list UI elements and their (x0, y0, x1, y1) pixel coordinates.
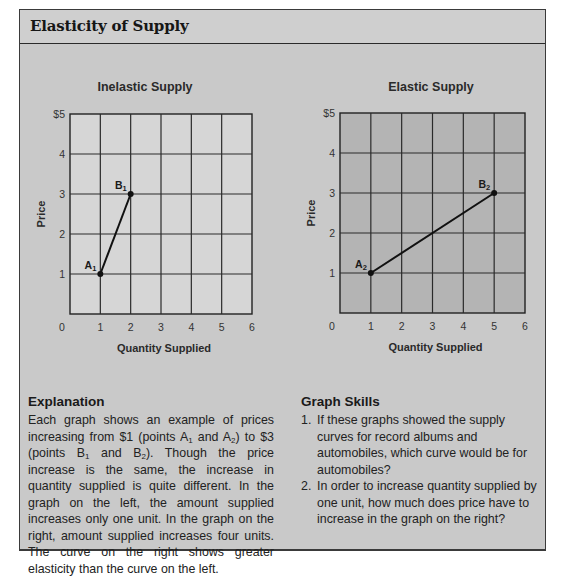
explanation-title: Explanation (28, 394, 105, 409)
graph-skill-item: 2.In order to increase quantity supplied… (301, 478, 541, 528)
x-tick-label: 1 (368, 320, 374, 332)
y-tick-label: 1 (329, 267, 335, 279)
right-chart-x-axis-label: Quantity Supplied (388, 341, 482, 353)
right-chart-y-axis-label: Price (305, 200, 317, 227)
x-tick-label: 5 (491, 320, 497, 332)
graph-skill-item: 1.If these graphs showed the supply curv… (301, 412, 541, 478)
graph-skills-list: 1.If these graphs showed the supply curv… (301, 412, 541, 528)
graph-skills-title: Graph Skills (301, 394, 380, 409)
x-tick-label: 4 (460, 320, 466, 332)
x-tick-label: 2 (399, 320, 405, 332)
data-point (368, 270, 374, 276)
x-tick-label: 6 (522, 320, 528, 332)
x-tick-label: 0 (329, 320, 335, 332)
y-tick-label: 2 (329, 227, 335, 239)
y-tick-label: 4 (329, 147, 335, 159)
x-tick-label: 3 (430, 320, 436, 332)
data-point (491, 190, 497, 196)
y-tick-label: $5 (323, 107, 335, 119)
y-tick-label: 3 (329, 187, 335, 199)
explanation-text: Each graph shows an example of prices in… (28, 412, 274, 577)
